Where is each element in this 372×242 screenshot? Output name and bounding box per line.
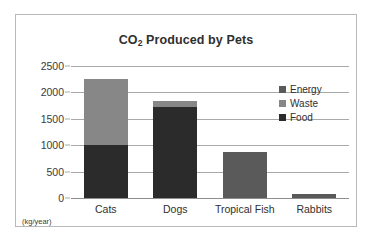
chart-figure-frame: CO2 Produced by Pets 2500200015001000500… bbox=[15, 14, 357, 227]
y-axis-tick-1000 bbox=[65, 145, 70, 146]
y-axis-tick-2500 bbox=[65, 66, 70, 67]
legend-swatch-energy-icon bbox=[279, 86, 286, 93]
chart-title-subscript: 2 bbox=[138, 38, 143, 48]
x-axis-label-dogs: Dogs bbox=[163, 203, 188, 215]
chart-title: CO2 Produced by Pets bbox=[16, 33, 356, 47]
chart-title-rest: Produced by Pets bbox=[143, 33, 254, 47]
y-axis-label-1000: 1000 bbox=[41, 139, 64, 151]
bar-segment-energy[interactable] bbox=[292, 194, 336, 198]
legend-label: Energy bbox=[290, 84, 322, 95]
y-axis-label-500: 500 bbox=[46, 166, 64, 178]
x-axis-label-tropical-fish: Tropical Fish bbox=[215, 203, 275, 215]
bar-segment-food[interactable] bbox=[153, 107, 197, 198]
x-axis-label-rabbits: Rabbits bbox=[296, 203, 332, 215]
bar-segment-waste[interactable] bbox=[84, 79, 128, 145]
bar-group[interactable]: Dogs bbox=[153, 66, 197, 198]
legend-item-energy[interactable]: Energy bbox=[279, 82, 322, 96]
y-axis-label-1500: 1500 bbox=[41, 113, 64, 125]
bar-group[interactable]: Cats bbox=[84, 66, 128, 198]
bar-segment-food[interactable] bbox=[84, 145, 128, 198]
legend-label: Waste bbox=[290, 98, 318, 109]
legend-label: Food bbox=[290, 112, 313, 123]
bar-group[interactable]: Tropical Fish bbox=[223, 66, 267, 198]
y-axis-tick-1500 bbox=[65, 118, 70, 119]
y-axis-tick-500 bbox=[65, 171, 70, 172]
y-axis-label-2500: 2500 bbox=[41, 60, 64, 72]
legend-swatch-food-icon bbox=[279, 114, 286, 121]
chart-title-main: CO bbox=[119, 33, 138, 47]
y-axis-tick-0 bbox=[65, 198, 70, 199]
gridline-0 bbox=[71, 198, 349, 199]
legend-item-waste[interactable]: Waste bbox=[279, 96, 322, 110]
x-axis-label-cats: Cats bbox=[95, 203, 117, 215]
legend-swatch-waste-icon bbox=[279, 100, 286, 107]
y-axis-label-2000: 2000 bbox=[41, 86, 64, 98]
y-axis-label-0: 0 bbox=[58, 192, 64, 204]
chart-legend: EnergyWasteFood bbox=[279, 82, 322, 124]
bar-segment-energy[interactable] bbox=[223, 152, 267, 198]
legend-item-food[interactable]: Food bbox=[279, 110, 322, 124]
bar-segment-waste[interactable] bbox=[153, 101, 197, 107]
y-axis-unit-label: (kg/year) bbox=[22, 217, 52, 226]
y-axis-tick-2000 bbox=[65, 92, 70, 93]
